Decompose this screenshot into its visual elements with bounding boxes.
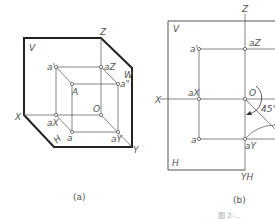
label-ax: aX [47,118,60,128]
label-H-b: H [172,158,179,168]
label-ay-b: aY [245,141,258,151]
figure-a: V Z W a' aZ a" A O X aX a aY H Y (a) [14,27,140,202]
label-X-b: X [154,95,162,105]
label-YH: YH [241,172,253,182]
label-Y: Y [133,145,140,155]
label-ax-b: aX [188,88,201,98]
label-a: a [67,133,73,143]
label-az: aZ [104,62,117,72]
label-X: X [14,112,22,122]
caption-b: (b) [233,195,246,205]
label-ay: aY [111,134,124,144]
figure-footer: 图 2-... [218,212,241,219]
label-az-b: aZ [249,38,262,48]
label-a-dprime: a" [120,79,130,89]
label-V-b: V [173,24,180,34]
label-a-prime-b: a' [190,44,198,54]
label-a-prime: a' [47,62,55,72]
label-O: O [93,104,100,114]
label-H: H [52,133,64,145]
label-Z: Z [99,27,107,37]
label-a-b: a [191,135,197,145]
label-45deg: 45° [261,104,275,114]
label-O-b: O [249,88,256,98]
figure-b: V Z a' aZ X aX O 45° a aY H YH (b) 图 2-.… [154,4,275,219]
projection-diagram: V Z W a' aZ a" A O X aX a aY H Y (a) V Z… [0,0,275,219]
label-Z-b: Z [241,4,249,14]
label-V: V [29,43,36,53]
label-A: A [71,87,78,97]
caption-a: (a) [73,192,86,202]
